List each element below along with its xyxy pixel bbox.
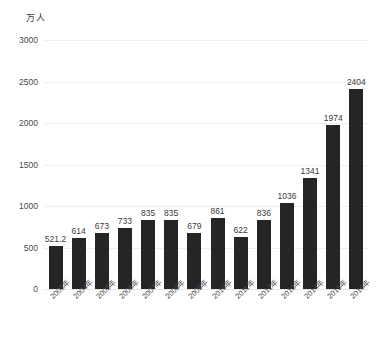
y-axis-tick-label: 2000: [4, 118, 38, 128]
bar-slot: 861: [207, 40, 229, 289]
y-axis-tick-label: 2500: [4, 77, 38, 87]
y-axis-tick-label: 3000: [4, 35, 38, 45]
y-axis-tick-label: 500: [4, 243, 38, 253]
bar-slot: 614: [68, 40, 90, 289]
bar-slot: 835: [160, 40, 182, 289]
bar-slot: 622: [230, 40, 252, 289]
bar-slot: 835: [137, 40, 159, 289]
bar-slot: 1341: [299, 40, 321, 289]
bar-slot: 521.2: [45, 40, 67, 289]
bar-chart: 万人 050010001500200025003000 521.26146737…: [0, 0, 376, 338]
y-axis-tick-label: 1500: [4, 160, 38, 170]
bar-value-label: 2404: [338, 77, 374, 87]
plot-area: 521.261467373383583567986162283610361341…: [44, 40, 368, 289]
bar[interactable]: [326, 125, 340, 289]
bar-slot: 673: [91, 40, 113, 289]
y-axis-tick-label: 1000: [4, 201, 38, 211]
bar[interactable]: [349, 89, 363, 289]
bar-slot: 1036: [276, 40, 298, 289]
y-axis-tick-label: 0: [4, 284, 38, 294]
bar-slot: 733: [114, 40, 136, 289]
bar-slot: 836: [253, 40, 275, 289]
bar-slot: 2404: [345, 40, 367, 289]
bar-slot: 679: [183, 40, 205, 289]
